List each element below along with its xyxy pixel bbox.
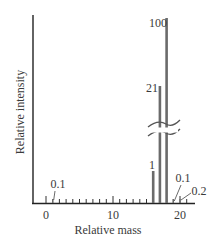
bar-label: 100 xyxy=(149,16,167,30)
x-tick-label: 0 xyxy=(43,208,49,222)
bar-mass-20 xyxy=(179,199,180,203)
bar-label: 0.1 xyxy=(51,177,66,191)
bar-mass-16 xyxy=(152,171,155,203)
bars xyxy=(52,18,181,203)
bar-label: 0.2 xyxy=(192,184,207,198)
bar-label: 0.1 xyxy=(176,171,191,185)
bar-labels: 0.11211000.10.2 xyxy=(51,16,207,201)
leader-line xyxy=(54,191,55,200)
y-axis-label: Relative intensity xyxy=(13,70,27,154)
x-tick-labels: 01020 xyxy=(43,208,186,222)
bar-mass-1 xyxy=(52,199,53,203)
x-tick-label: 10 xyxy=(107,208,119,222)
y-axis-break xyxy=(148,120,180,136)
x-tick-label: 20 xyxy=(174,208,186,222)
leader-line xyxy=(181,193,191,200)
bar-mass-19 xyxy=(173,199,174,203)
bar-mass-18 xyxy=(165,18,168,203)
axes xyxy=(32,15,195,204)
bar-label: 21 xyxy=(146,81,158,95)
mass-spectrum-chart: 0.11211000.10.2 01020 Relative mass Rela… xyxy=(0,0,224,243)
x-axis-label: Relative mass xyxy=(75,223,142,237)
bar-label: 1 xyxy=(149,158,155,172)
bar-mass-17 xyxy=(159,86,162,203)
